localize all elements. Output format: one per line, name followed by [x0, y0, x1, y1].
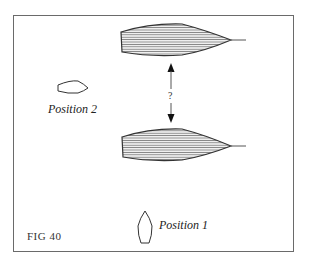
arrow-up-icon [168, 63, 175, 72]
large-hull-bottom [118, 125, 246, 165]
label-position-1: Position 1 [159, 218, 208, 233]
large-hull-top [118, 20, 246, 60]
arrow-down-icon [168, 114, 175, 123]
question-mark: ? [168, 90, 172, 101]
diagram-canvas [0, 0, 310, 269]
small-boat-position-2 [58, 81, 88, 93]
label-position-2: Position 2 [48, 102, 97, 117]
small-boat-position-1 [138, 211, 152, 243]
figure-caption: FIG 40 [27, 230, 61, 242]
